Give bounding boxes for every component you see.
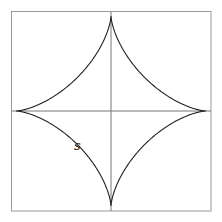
- astroid-diagram: [0, 0, 222, 222]
- region-label-s: s: [74, 138, 81, 153]
